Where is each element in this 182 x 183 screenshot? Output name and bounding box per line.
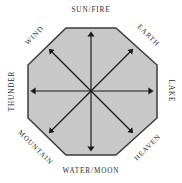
label-thunder: THUNDER: [9, 71, 16, 112]
octagon-diagram: SUN/FIRE EARTH LAKE HEAVEN WATER/MOON MO…: [0, 0, 182, 183]
octagon-figure: [0, 0, 182, 183]
label-sun-fire: SUN/FIRE: [71, 7, 110, 14]
label-water-moon: WATER/MOON: [63, 168, 120, 175]
label-lake: LAKE: [166, 80, 173, 103]
